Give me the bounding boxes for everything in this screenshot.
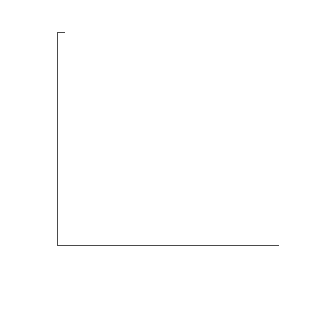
plot-area xyxy=(58,32,279,245)
bar-chart-figure xyxy=(0,0,314,322)
x-axis-line xyxy=(57,245,279,246)
